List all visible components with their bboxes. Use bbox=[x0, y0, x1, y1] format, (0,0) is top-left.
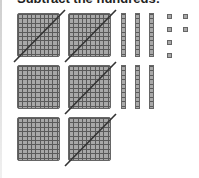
ten-rod bbox=[149, 65, 154, 109]
slash-icon bbox=[64, 9, 117, 63]
heading: Subtract the hundreds: bbox=[17, 0, 160, 6]
one-cube bbox=[167, 40, 172, 45]
hundred-block bbox=[17, 117, 60, 161]
one-cube bbox=[167, 27, 172, 32]
one-cube bbox=[167, 14, 172, 19]
slash-icon bbox=[64, 113, 117, 167]
slash-icon bbox=[13, 9, 66, 63]
hundred-block bbox=[17, 65, 60, 109]
ten-rod bbox=[135, 65, 140, 109]
one-cube bbox=[183, 27, 188, 32]
one-cube bbox=[183, 14, 188, 19]
hundred-block-crossed bbox=[68, 117, 111, 161]
ten-rod bbox=[121, 13, 126, 57]
hundred-block-crossed bbox=[17, 13, 60, 57]
hundred-block-crossed bbox=[68, 65, 111, 109]
hundred-block-crossed bbox=[68, 13, 111, 57]
left-border bbox=[0, 0, 2, 178]
ten-rod bbox=[149, 13, 154, 57]
ten-rod bbox=[135, 13, 140, 57]
slash-icon bbox=[64, 61, 117, 115]
one-cube bbox=[167, 53, 172, 58]
ten-rod bbox=[121, 65, 126, 109]
